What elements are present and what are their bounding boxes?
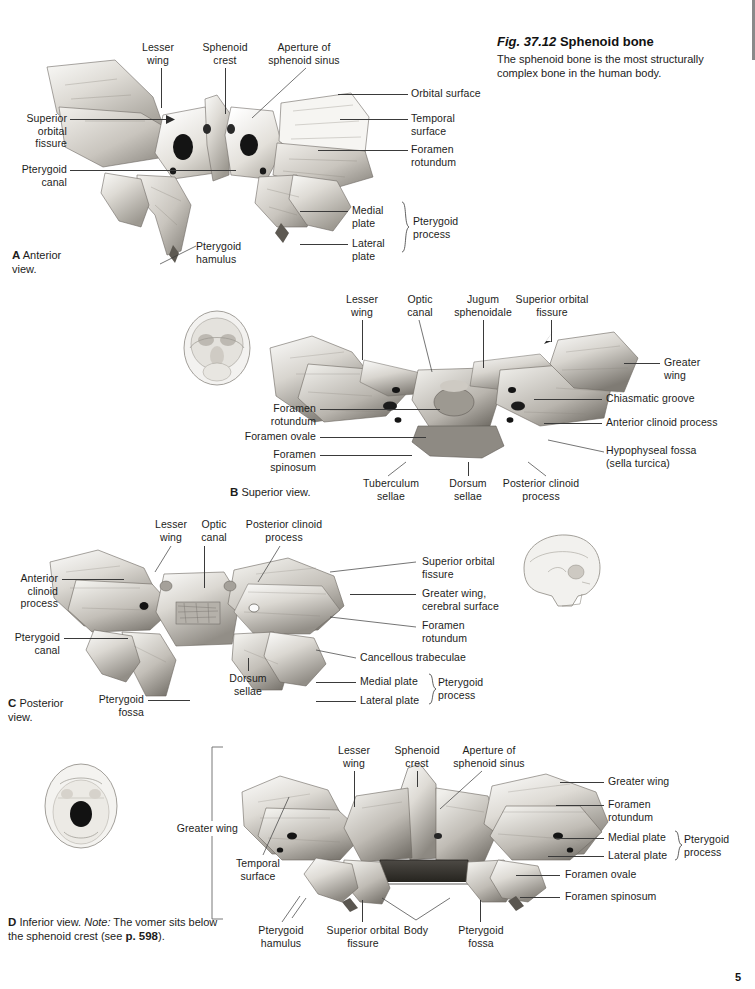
leader-chiasmatic-groove-b bbox=[534, 399, 602, 400]
leader-foramen-spinosum-d bbox=[520, 897, 560, 898]
leader-foramen-spinosum-b bbox=[320, 455, 412, 456]
page-number: 5 bbox=[735, 971, 753, 983]
label-pterygoid-hamulus-a: Pterygoid hamulus bbox=[196, 240, 266, 265]
figure-title-line: Fig. 37.12 Sphenoid bone bbox=[497, 34, 745, 50]
leader-lateral-plate-a bbox=[300, 244, 348, 245]
leader-pcp-c bbox=[258, 546, 284, 584]
figure-page: Fig. 37.12 Sphenoid bone The sphenoid bo… bbox=[0, 0, 755, 989]
label-optic-canal-c: Optic canal bbox=[192, 518, 236, 543]
label-dorsum-sellae-c: Dorsum sellae bbox=[222, 672, 274, 697]
leader-lesser-wing-b bbox=[362, 320, 363, 360]
leader-temporal-surface-a bbox=[340, 119, 408, 120]
label-orbital-surface-a: Orbital surface bbox=[411, 87, 506, 100]
label-pcp-c: Posterior clinoid process bbox=[240, 518, 328, 543]
leader-greater-wing-b bbox=[624, 363, 660, 364]
leader-medial-plate-c bbox=[316, 682, 356, 683]
leader-sof-c bbox=[330, 558, 416, 574]
label-pcp-b: Posterior clinoid process bbox=[498, 477, 584, 502]
leader-pterygoid-hamulus-d bbox=[276, 896, 306, 924]
label-foramen-spinosum-d: Foramen spinosum bbox=[565, 890, 675, 903]
leader-lateral-plate-c bbox=[316, 701, 356, 702]
panel-b-caption: B Superior view. bbox=[230, 486, 370, 500]
panel-b-orientation-skull bbox=[180, 310, 254, 388]
brace-pterygoid-process-d bbox=[674, 830, 683, 861]
leader-pcp-b bbox=[528, 462, 548, 478]
brace-pterygoid-process-c bbox=[428, 673, 437, 705]
label-foramen-ovale-b: Foramen ovale bbox=[236, 430, 316, 443]
label-pterygoid-process-c: Pterygoid process bbox=[438, 676, 502, 701]
label-greater-wing-left-d: Greater wing bbox=[168, 821, 240, 836]
label-lateral-plate-c: Lateral plate bbox=[360, 694, 430, 707]
label-temporal-surface-d: Temporal surface bbox=[230, 857, 286, 882]
leader-sphenoid-crest-a bbox=[225, 68, 226, 114]
leader-pterygoid-fossa-d bbox=[480, 900, 481, 922]
leader-body-d bbox=[380, 896, 452, 922]
label-acp-c: Anterior clinoid process bbox=[2, 572, 58, 610]
leader-lesser-wing-d bbox=[354, 771, 355, 807]
label-lesser-wing-a: Lesser wing bbox=[130, 41, 186, 66]
brace-pterygoid-process-a bbox=[401, 201, 410, 253]
label-cancellous-trabeculae-c: Cancellous trabeculae bbox=[360, 651, 480, 664]
label-foramen-ovale-d: Foramen ovale bbox=[565, 868, 657, 881]
leader-foramen-ovale-b bbox=[320, 437, 426, 438]
label-aperture-a: Aperture of sphenoid sinus bbox=[260, 41, 348, 66]
leader-temporal-surface-d bbox=[255, 797, 291, 857]
leader-foramen-rotundum-c bbox=[330, 617, 416, 631]
label-lesser-wing-c: Lesser wing bbox=[144, 518, 198, 543]
label-medial-plate-c: Medial plate bbox=[360, 675, 430, 688]
leader-sof-d bbox=[362, 900, 363, 922]
leader-foramen-rotundum-a bbox=[318, 150, 408, 151]
label-lesser-wing-b: Lesser wing bbox=[336, 293, 388, 318]
arrow-sof-b bbox=[540, 330, 556, 346]
leader-dorsum-sellae-c bbox=[248, 658, 249, 671]
label-medial-plate-d: Medial plate bbox=[608, 831, 676, 844]
panel-c-artwork bbox=[48, 540, 348, 710]
label-foramen-rotundum-a: Foramen rotundum bbox=[411, 143, 483, 168]
panel-c-caption: C Posterior view. bbox=[8, 697, 98, 724]
label-pterygoid-hamulus-d: Pterygoid hamulus bbox=[248, 924, 314, 949]
panel-d-orientation-skull bbox=[40, 762, 122, 850]
label-foramen-spinosum-b: Foramen spinosum bbox=[258, 448, 316, 473]
label-greater-wing-cerebral-c: Greater wing, cerebral surface bbox=[422, 587, 526, 612]
label-pterygoid-fossa-d: Pterygoid fossa bbox=[450, 924, 512, 949]
label-anterior-clinoid-process-b: Anterior clinoid process bbox=[606, 416, 746, 429]
leader-foramen-rotundum-d bbox=[556, 805, 604, 806]
leader-pterygoid-fossa-c bbox=[148, 700, 190, 701]
panel-d-letter: D bbox=[8, 916, 16, 928]
panel-a-artwork bbox=[45, 55, 375, 270]
leader-tuberculum-b bbox=[388, 462, 410, 478]
label-aperture-d: Aperture of sphenoid sinus bbox=[446, 744, 532, 769]
leader-sphenoid-crest-d bbox=[417, 771, 418, 787]
label-optic-canal-b: Optic canal bbox=[398, 293, 442, 318]
arrow-sof-a bbox=[166, 115, 176, 124]
label-sof-b: Superior orbital fissure bbox=[504, 293, 600, 318]
label-hypophyseal-fossa-b: Hypophyseal fossa (sella turcica) bbox=[606, 444, 736, 469]
leader-pterygoid-hamulus-a bbox=[160, 246, 196, 266]
label-lesser-wing-d: Lesser wing bbox=[330, 744, 378, 769]
leader-acp-c bbox=[62, 579, 124, 580]
figure-number: Fig. 37.12 bbox=[497, 34, 556, 49]
leader-medial-plate-d bbox=[556, 838, 604, 839]
leader-jugum-b bbox=[483, 320, 484, 368]
label-pterygoid-canal-a: Pterygoid canal bbox=[5, 163, 67, 188]
label-medial-plate-a: Medial plate bbox=[352, 204, 400, 229]
leader-gw-cerebral-c bbox=[350, 594, 416, 595]
leader-hypophyseal-b bbox=[548, 440, 604, 458]
label-chiasmatic-groove-b: Chiasmatic groove bbox=[606, 392, 726, 405]
leader-lesser-wing-a bbox=[161, 68, 162, 108]
leader-optic-canal-c bbox=[204, 546, 205, 588]
leader-foramen-ovale-d bbox=[516, 875, 560, 876]
figure-caption: The sphenoid bone is the most structural… bbox=[497, 52, 745, 80]
label-foramen-rotundum-c: Foramen rotundum bbox=[422, 619, 496, 644]
leader-dorsum-sellae-b bbox=[468, 462, 469, 476]
leader-cancellous-c bbox=[316, 650, 356, 662]
panel-d-caption: D Inferior view. Note: The vomer sits be… bbox=[8, 916, 218, 943]
label-sof-c: Superior orbital fissure bbox=[422, 555, 522, 580]
label-dorsum-sellae-b: Dorsum sellae bbox=[440, 477, 496, 502]
leader-lesser-wing-c bbox=[155, 546, 179, 574]
label-greater-wing-b: Greater wing bbox=[664, 356, 724, 381]
panel-a-caption: A Anterior view. bbox=[12, 249, 92, 276]
figure-title: Sphenoid bone bbox=[560, 34, 654, 49]
label-sphenoid-crest-d: Sphenoid crest bbox=[388, 744, 446, 769]
leader-acp-b bbox=[544, 423, 602, 424]
